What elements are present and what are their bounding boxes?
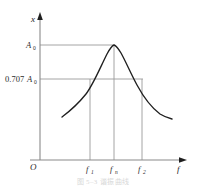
- y-tick-halfpower-sub: 0: [34, 79, 37, 85]
- y-tick-label-peak: A 0: [25, 40, 36, 51]
- y-tick-peak-main: A: [25, 40, 32, 50]
- x-tick-f1-sub: 1: [91, 169, 94, 175]
- x-tick-f1-main: f: [86, 164, 90, 174]
- x-axis-arrow-icon: [179, 157, 187, 163]
- origin-label: O: [30, 162, 37, 172]
- y-tick-peak-sub: 0: [33, 45, 36, 51]
- x-tick-label-f1: f 1: [86, 164, 94, 175]
- y-tick-halfpower-main: A: [26, 74, 33, 84]
- y-tick-label-half-power: 0.707 A 0: [5, 74, 37, 85]
- y-tick-halfpower-prefix: 0.707: [5, 74, 24, 84]
- x-tick-label-f2: f 2: [138, 164, 146, 175]
- x-tick-label-fn: f n: [110, 164, 118, 175]
- resonance-chart-svg: x f O A 0 0.707 A 0 f 1 f n f 2: [0, 0, 206, 188]
- y-axis-arrow-icon: [37, 12, 43, 20]
- x-tick-fn-main: f: [110, 164, 114, 174]
- x-tick-f2-main: f: [138, 164, 142, 174]
- resonance-curve-path: [62, 45, 172, 119]
- x-tick-fn-sub: n: [115, 169, 118, 175]
- resonance-curve-figure: x f O A 0 0.707 A 0 f 1 f n f 2: [0, 0, 206, 188]
- y-axis-label: x: [30, 14, 35, 24]
- x-axis-label: f: [177, 164, 181, 174]
- figure-caption: 图 5–3 谐振曲线: [0, 176, 206, 188]
- x-tick-f2-sub: 2: [143, 169, 146, 175]
